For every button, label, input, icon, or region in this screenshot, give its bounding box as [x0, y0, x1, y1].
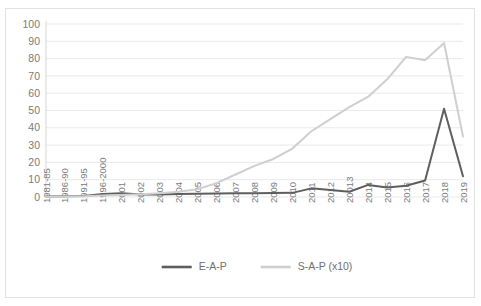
y-axis-tick-label: 100 [22, 18, 40, 30]
line-chart: 01020304050607080901001981-851986-901991… [6, 9, 474, 297]
y-axis-tick-label: 60 [28, 87, 40, 99]
x-axis-tick-label: 2005 [192, 182, 203, 203]
x-axis-tick-label: 2002 [135, 182, 146, 203]
x-axis-tick-label: 2012 [325, 182, 336, 203]
chart-container: 01020304050607080901001981-851986-901991… [5, 8, 475, 298]
y-axis-tick-label: 70 [28, 70, 40, 82]
x-axis-tick-label: 1986-90 [59, 168, 70, 203]
y-axis-tick-label: 90 [28, 35, 40, 47]
x-axis-tick-label: 2011 [306, 183, 317, 203]
legend-label[interactable]: E-A-P [199, 260, 227, 272]
x-axis-tick-label: 2018 [439, 182, 450, 203]
y-axis-tick-label: 30 [28, 139, 40, 151]
y-axis-tick-label: 20 [28, 156, 40, 168]
x-axis-tick-label: 1981-85 [41, 168, 52, 203]
series-line [46, 43, 463, 197]
x-axis-tick-label: 2015 [382, 182, 393, 203]
x-axis-tick-label: 1991-95 [78, 168, 89, 203]
x-axis-tick-label: 2019 [458, 182, 469, 203]
legend-label[interactable]: S-A-P (x10) [298, 260, 353, 272]
y-axis-tick-label: 40 [28, 121, 40, 133]
y-axis-tick-label: 50 [28, 104, 40, 116]
x-axis-tick-label: 2017 [420, 182, 431, 203]
y-axis-tick-label: 10 [28, 173, 40, 185]
y-axis-tick-label: 0 [34, 191, 40, 203]
y-axis-tick-label: 80 [28, 52, 40, 64]
